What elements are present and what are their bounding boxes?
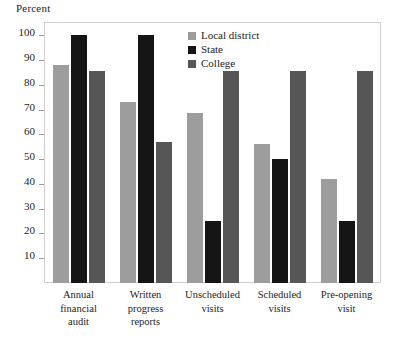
bar [187, 113, 203, 283]
y-axis-title: Percent [16, 2, 50, 14]
y-axis-tick-label: 70 [24, 102, 35, 113]
x-axis-label: Pre-openingvisit [313, 288, 380, 329]
y-axis-tick-label: 50 [24, 151, 35, 162]
legend-item[interactable]: Local district [188, 29, 259, 42]
x-axis-label: Scheduledvisits [246, 288, 313, 329]
y-axis-tick-label: 100 [19, 27, 36, 38]
bar [71, 35, 87, 283]
bar-group [45, 23, 112, 283]
legend-item[interactable]: College [188, 57, 259, 70]
y-axis-tick-label: 20 [24, 225, 35, 236]
y-axis-tick-mark [39, 159, 44, 160]
legend: Local districtStateCollege [188, 29, 259, 71]
bar [321, 179, 337, 283]
bar [272, 159, 288, 283]
legend-swatch-icon [188, 46, 196, 54]
legend-label: Local district [201, 30, 259, 41]
x-axis-label-line: Annual [46, 288, 111, 302]
bar [138, 35, 154, 283]
x-axis-label-line: audit [46, 315, 111, 329]
x-axis-label-line: visits [180, 302, 245, 316]
bar [156, 142, 172, 283]
x-axis-labels: AnnualfinancialauditWrittenprogressrepor… [45, 288, 380, 329]
legend-swatch-icon [188, 32, 196, 40]
y-axis-tick-mark [39, 134, 44, 135]
bar [205, 221, 221, 283]
y-axis-tick-mark [39, 258, 44, 259]
bar-group [112, 23, 179, 283]
y-axis-tick-label: 80 [24, 77, 35, 88]
legend-swatch-icon [188, 60, 196, 68]
y-axis-tick-label: 60 [24, 126, 35, 137]
x-axis-label-line: visit [314, 302, 379, 316]
bar [223, 71, 239, 283]
bar [290, 71, 306, 283]
y-axis-tick-mark [39, 233, 44, 234]
x-axis-label-line: Written [113, 288, 178, 302]
x-axis-label: Writtenprogressreports [112, 288, 179, 329]
x-axis-label: Unscheduledvisits [179, 288, 246, 329]
y-axis-tick-mark [39, 110, 44, 111]
x-axis-label-line: progress [113, 302, 178, 316]
legend-label: College [201, 58, 235, 69]
bar-group [313, 23, 380, 283]
y-axis-tick-mark [39, 209, 44, 210]
y-axis-tick-mark [39, 184, 44, 185]
bar [53, 65, 69, 283]
x-axis-label-line: Unscheduled [180, 288, 245, 302]
bar [357, 71, 373, 283]
y-axis-tick-label: 10 [24, 250, 35, 261]
bar [254, 144, 270, 283]
y-axis-tick-mark [39, 60, 44, 61]
bar [120, 102, 136, 283]
y-axis-tick-mark [39, 85, 44, 86]
y-axis-tick-label: 90 [24, 52, 35, 63]
bar-chart: Percent 102030405060708090100 Annualfina… [0, 0, 398, 342]
y-axis-tick-label: 40 [24, 176, 35, 187]
y-axis-tick-label: 30 [24, 201, 35, 212]
y-axis-tick-mark [39, 35, 44, 36]
x-axis-label-line: Pre-opening [314, 288, 379, 302]
x-axis-label-line: reports [113, 315, 178, 329]
x-axis-label-line: financial [46, 302, 111, 316]
legend-item[interactable]: State [188, 43, 259, 56]
legend-label: State [201, 44, 223, 55]
bar [339, 221, 355, 283]
x-axis-label-line: visits [247, 302, 312, 316]
bar [89, 71, 105, 283]
x-axis-label: Annualfinancialaudit [45, 288, 112, 329]
x-axis-label-line: Scheduled [247, 288, 312, 302]
